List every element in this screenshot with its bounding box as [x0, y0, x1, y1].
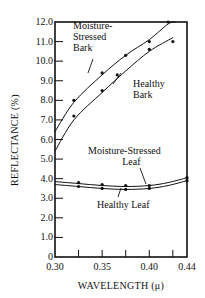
- label-line: Leaf: [88, 156, 161, 167]
- x-tick-label: 0.35: [93, 261, 111, 272]
- y-axis-label: REFLECTANCE (%): [9, 94, 20, 186]
- label-moisture-stressed-bark: Moisture- Stressed Bark: [73, 20, 112, 53]
- label-moisture-stressed-leaf: Moisture-Stressed Leaf: [88, 145, 161, 167]
- data-point: [101, 183, 104, 186]
- data-point: [77, 181, 80, 184]
- data-point: [77, 185, 80, 188]
- x-tick-label: 0.40: [141, 261, 159, 272]
- data-point: [185, 179, 188, 182]
- y-tick-label: 8.0: [41, 95, 54, 105]
- y-tick-label: 11.0: [36, 37, 53, 47]
- data-point: [72, 99, 75, 102]
- x-tick-label: 0.44: [178, 261, 196, 272]
- y-tick-label: 10.0: [36, 56, 54, 66]
- data-point: [101, 89, 104, 92]
- label-healthy-bark: Healthy Bark: [133, 78, 165, 100]
- data-point: [167, 20, 170, 23]
- x-axis-label: WAVELENGTH (μ): [78, 280, 164, 291]
- y-tick-label: 9.0: [41, 76, 54, 86]
- label-line: Bark: [73, 42, 112, 53]
- data-point: [101, 187, 104, 190]
- y-tick-label: 5.0: [41, 154, 54, 164]
- label-line: Healthy: [133, 78, 165, 89]
- y-tick-label: 3.0: [41, 193, 54, 203]
- data-point: [171, 40, 174, 43]
- label-line: Moisture-Stressed: [88, 145, 161, 156]
- y-tick-label: 4.0: [41, 174, 54, 184]
- data-point: [148, 187, 151, 190]
- data-point: [148, 48, 151, 51]
- data-point: [101, 71, 104, 74]
- data-point: [124, 184, 127, 187]
- data-point: [185, 176, 188, 179]
- data-point: [148, 40, 151, 43]
- curve-moisture-stressed-leaf: [55, 178, 187, 187]
- data-point: [124, 54, 127, 57]
- data-point: [148, 184, 151, 187]
- data-point: [124, 188, 127, 191]
- y-tick-label: 7.0: [41, 115, 54, 125]
- label-line: Moisture-: [73, 20, 112, 31]
- plot-frame: [55, 22, 187, 257]
- data-point: [72, 114, 75, 117]
- x-tick-label: 0.30: [46, 261, 64, 272]
- label-line: Bark: [133, 89, 165, 100]
- y-tick-label: 1.0: [41, 232, 54, 242]
- y-tick-label: 12.0: [36, 17, 54, 27]
- label-line: Stressed: [73, 31, 112, 42]
- y-tick-label: 6.0: [41, 135, 54, 145]
- y-tick-label: 2.0: [41, 213, 54, 223]
- label-healthy-leaf: Healthy Leaf: [97, 199, 149, 210]
